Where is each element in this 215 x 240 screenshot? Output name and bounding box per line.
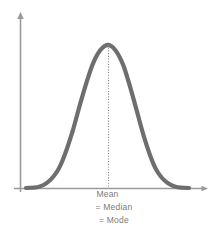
y-axis-arrow-icon [17,12,24,19]
mode-label: = Mode [13,214,215,227]
center-annotation-group: Mean = Median = Mode [0,188,215,227]
mean-label: Mean [0,188,215,201]
normal-distribution-curve [26,45,189,188]
median-label: = Median [13,201,215,214]
bell-curve-figure: Mean = Median = Mode [0,0,215,240]
